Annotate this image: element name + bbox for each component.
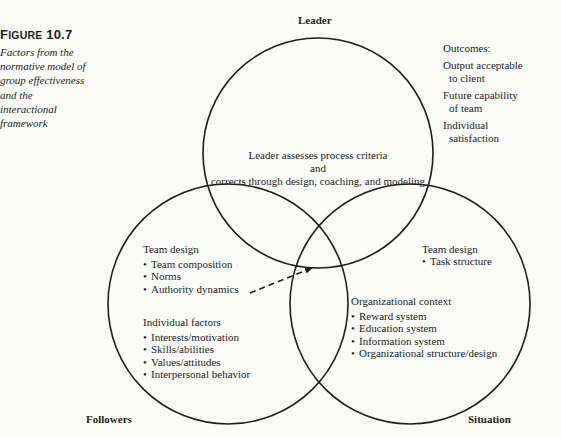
- outcome-line: to client: [443, 72, 561, 85]
- caption-line: normative model of: [0, 59, 130, 73]
- list-item: Values/attitudes: [143, 356, 313, 368]
- leader-description: Leader assesses process criteria and cor…: [188, 149, 448, 188]
- caption-line: group effectiveness: [0, 73, 130, 87]
- list-item: Information system: [351, 335, 531, 347]
- situation-org-heading: Organizational context: [351, 295, 531, 307]
- followers-individual-heading: Individual factors: [143, 316, 313, 328]
- situation-team-design-heading: Team design: [422, 243, 542, 255]
- outcomes-block: Outcomes: Output acceptable to client Fu…: [443, 42, 561, 145]
- situation-team-design-list: Task structure: [422, 255, 542, 267]
- figure-number-value: 10.7: [46, 27, 72, 42]
- list-item: Organizational structure/design: [351, 347, 531, 359]
- leader-text-line: Leader assesses process criteria: [188, 149, 448, 162]
- followers-team-design-heading: Team design: [143, 243, 303, 255]
- figure-number: FIGURE 10.7: [0, 27, 72, 42]
- outcome-item: Output acceptable to client: [443, 59, 561, 85]
- followers-individual-list: Interests/motivation Skills/abilities Va…: [143, 331, 313, 380]
- list-item: Interests/motivation: [143, 331, 313, 343]
- list-item: Interpersonal behavior: [143, 368, 313, 380]
- figure-caption: Factors from the normative model of grou…: [0, 45, 130, 130]
- situation-org-list: Reward system Education system Informati…: [351, 310, 531, 359]
- followers-label: Followers: [86, 413, 132, 425]
- leader-text-line: corrects through design, coaching, and m…: [188, 175, 448, 188]
- list-item: Task structure: [422, 255, 542, 267]
- figure-number-prefix: F: [0, 27, 8, 42]
- caption-line: Factors from the: [0, 45, 130, 59]
- outcomes-heading: Outcomes:: [443, 42, 561, 55]
- list-item: Skills/abilities: [143, 343, 313, 355]
- situation-label: Situation: [468, 413, 511, 425]
- caption-line: interactional: [0, 102, 130, 116]
- outcome-line: Individual: [443, 119, 561, 132]
- outcome-line: Future capability: [443, 89, 561, 102]
- followers-individual-factors: Individual factors Interests/motivation …: [143, 316, 313, 380]
- figure-number-rest: IGURE: [8, 29, 42, 41]
- caption-line: framework: [0, 116, 130, 130]
- list-item: Team composition: [143, 258, 303, 270]
- outcome-line: of team: [443, 102, 561, 115]
- followers-team-design-list: Team composition Norms Authority dynamic…: [143, 258, 303, 295]
- outcome-item: Individual satisfaction: [443, 119, 561, 145]
- list-item: Authority dynamics: [143, 283, 303, 295]
- list-item: Norms: [143, 270, 303, 282]
- followers-circle: [108, 184, 348, 424]
- outcome-line: satisfaction: [443, 132, 561, 145]
- leader-label: Leader: [298, 14, 332, 26]
- leader-text-line: and: [188, 162, 448, 175]
- list-item: Reward system: [351, 310, 531, 322]
- list-item: Education system: [351, 322, 531, 334]
- situation-team-design: Team design Task structure: [422, 243, 542, 267]
- caption-line: and the: [0, 88, 130, 102]
- outcome-item: Future capability of team: [443, 89, 561, 115]
- outcome-line: Output acceptable: [443, 59, 561, 72]
- situation-organizational-context: Organizational context Reward system Edu…: [351, 295, 531, 359]
- followers-team-design: Team design Team composition Norms Autho…: [143, 243, 303, 295]
